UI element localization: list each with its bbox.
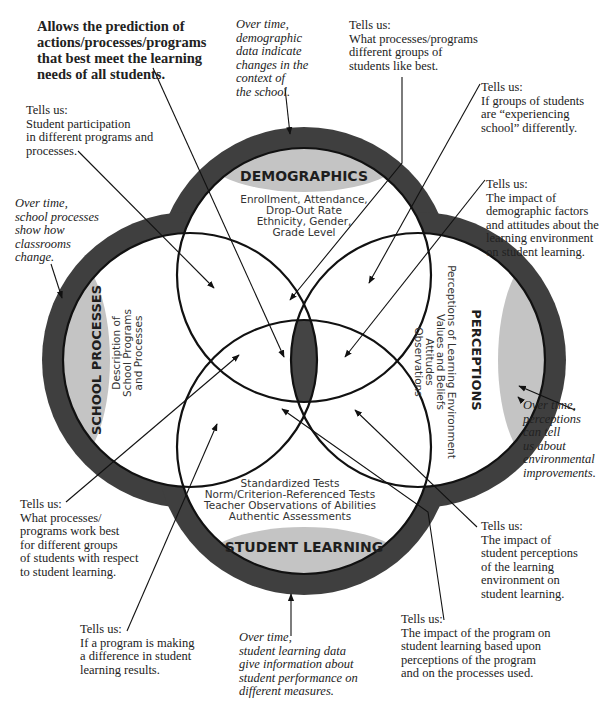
- title-perceptions: PERCEPTIONS: [469, 309, 484, 410]
- over-time-school-processes: Over time, school processes show how cla…: [15, 197, 99, 265]
- tells-us-experiencing: Tells us: If groups of students are “exp…: [481, 81, 584, 135]
- tells-us-demographic-impact: Tells us: The impact of demographic fact…: [486, 178, 599, 260]
- arrow-over-time-perceptions: [518, 397, 519, 398]
- title-school-processes: SCHOOL PROCESSES: [89, 285, 104, 435]
- over-time-perceptions: Over time, perceptions can tell us about…: [523, 399, 596, 481]
- headline: Allows the prediction of actions/process…: [37, 18, 206, 82]
- demographics-item: Grade Level: [272, 226, 335, 238]
- student-learning-item: Authentic Assessments: [229, 510, 351, 522]
- title-demographics: DEMOGRAPHICS: [240, 168, 368, 184]
- tells-us-program-impact: Tells us: The impact of the program on s…: [401, 613, 551, 681]
- perceptions-item: Observations: [413, 327, 425, 396]
- arrow-over-time-school: [51, 264, 62, 298]
- over-time-demographics: Over time, demographic data indicate cha…: [236, 18, 308, 100]
- tells-us-perception-impact: Tells us: The impact of student percepti…: [481, 520, 578, 602]
- tells-us-like-best: Tells us: What processes/programs differ…: [349, 19, 478, 73]
- school-processes-item: and Processes: [132, 316, 144, 391]
- tells-us-participation: Tells us: Student participation in diffe…: [26, 104, 153, 158]
- tells-us-making-difference: Tells us: If a program is making a diffe…: [80, 623, 195, 677]
- school-processes-items: Description of School Programs and Proce…: [110, 309, 144, 397]
- tells-us-work-best: Tells us: What processes/ programs work …: [20, 498, 138, 580]
- title-student-learning: STUDENT LEARNING: [225, 539, 384, 555]
- over-time-student-learning: Over time, student learning data give in…: [239, 631, 358, 699]
